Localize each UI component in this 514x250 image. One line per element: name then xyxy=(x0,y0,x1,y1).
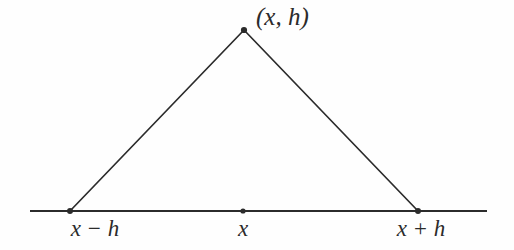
axis-label-x: x xyxy=(238,217,248,240)
apex-point-dot xyxy=(241,27,247,33)
axis-label-x-plus-h: x + h xyxy=(397,217,446,240)
left-base-point-dot xyxy=(67,208,73,214)
axis-label-x-minus-h: x − h xyxy=(71,217,120,240)
center-tick-dot xyxy=(240,208,245,213)
hat-left-edge xyxy=(70,30,244,211)
hat-function-figure: (x, h) x − h x x + h xyxy=(0,0,514,250)
figure-canvas xyxy=(0,0,514,250)
hat-right-edge xyxy=(244,30,418,211)
right-base-point-dot xyxy=(415,208,421,214)
apex-coordinate-label: (x, h) xyxy=(256,4,309,29)
